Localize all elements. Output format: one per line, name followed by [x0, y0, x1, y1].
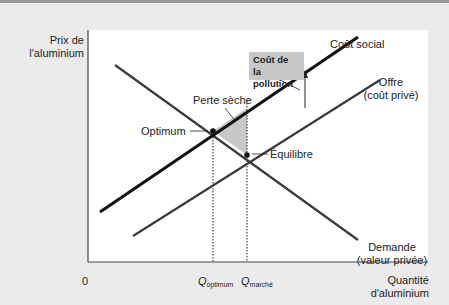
y-axis-label-line1: Prix de [10, 34, 84, 47]
demand-label: Demande (valeur privée) [352, 241, 432, 267]
demand-label-line1: Demande [352, 241, 432, 254]
pollution-cost-box: Coût de la pollution [249, 52, 304, 80]
y-axis-label-line2: l'aluminium [10, 47, 84, 60]
q-optimum-label: Qoptimum [198, 275, 233, 288]
equilibrium-label: Équilibre [270, 148, 313, 161]
pollution-cost-line2: la pollution [253, 66, 300, 90]
demand-curve [115, 65, 358, 240]
q-market-main: Q [241, 275, 250, 287]
demand-label-line2: (valeur privée) [352, 254, 432, 267]
x-axis-label: Quantité d'aluminium [340, 274, 429, 300]
q-optimum-sub: optimum [207, 281, 234, 288]
equilibrium-point [244, 152, 250, 158]
q-market-sub: marché [250, 281, 273, 288]
y-axis-label: Prix de l'aluminium [10, 34, 84, 60]
optimum-point [210, 128, 216, 134]
optimum-label: Optimum [141, 125, 186, 138]
q-optimum-main: Q [198, 275, 207, 287]
social-cost-curve [100, 37, 358, 212]
social-cost-label: Coût social [330, 38, 384, 51]
supply-label-line1: Offre [355, 76, 427, 89]
origin-label: 0 [82, 275, 88, 288]
x-axis-label-line1: Quantité [340, 274, 429, 287]
pollution-cost-line1: Coût de [253, 54, 300, 66]
q-market-label: Qmarché [241, 275, 273, 288]
x-axis-label-line2: d'aluminium [340, 287, 429, 300]
supply-label: Offre (coût privé) [355, 76, 427, 102]
supply-label-line2: (coût privé) [355, 89, 427, 102]
deadweight-loss-label: Perte sèche [193, 94, 252, 107]
